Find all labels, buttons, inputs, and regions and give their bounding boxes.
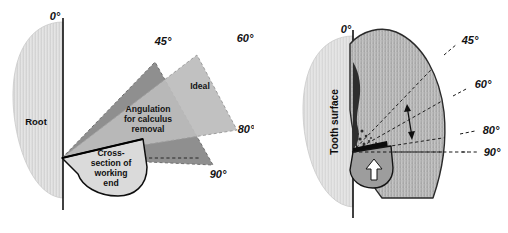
label-tooth-surface: Tooth surface [329,89,340,155]
angle-leader-lines [444,44,477,152]
label-45-degrees: 45° [154,35,172,47]
label-60-degrees: 60° [475,78,492,90]
figure-root: 0° 45° 60° 80° 90° Root Ideal Angulation… [0,0,508,233]
tooth-root-shape [303,36,353,207]
panel-clinical-application: 0° 45° 60° 80° 90° Tooth surface [254,0,508,233]
svg-text:Cross-: Cross- [97,148,124,158]
label-root: Root [25,116,47,127]
label-60-degrees: 60° [237,32,254,44]
svg-text:section of: section of [91,158,132,168]
label-80-degrees: 80° [483,124,500,136]
svg-text:Angulation: Angulation [126,104,171,114]
label-zero-degrees: 0° [50,10,61,22]
panel-angulation-schematic: 0° 45° 60° 80° 90° Root Ideal Angulation… [0,0,254,233]
label-90-degrees: 90° [484,146,501,158]
svg-text:end: end [103,178,118,188]
label-90-degrees: 90° [210,168,227,180]
label-ideal: Ideal [190,81,210,91]
root-shape [13,22,63,198]
svg-text:working: working [94,168,128,178]
svg-text:removal: removal [132,124,165,134]
label-80-degrees: 80° [238,123,254,135]
label-45-degrees: 45° [461,34,479,46]
label-zero-degrees: 0° [341,23,352,35]
svg-text:for calculus: for calculus [124,114,172,124]
